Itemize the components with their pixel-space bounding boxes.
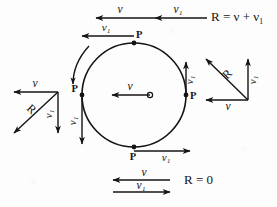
left-vector-triangle-group: ν ν₁ R (14, 77, 58, 133)
left-triangle-v1-label: ν₁ (42, 109, 54, 118)
right-triangle-v-label: ν (225, 100, 231, 112)
bottom-result-equation: R = 0 (184, 172, 213, 187)
left-triangle-v-label: ν (32, 77, 38, 89)
top-annotation-group: ν ν₁ R = ν + ν₁ (96, 3, 264, 24)
wheel-group: ν P ν₁ P ν₁ P ν₁ P ν₁ (66, 21, 197, 163)
left-triangle-resultant-label: R (24, 101, 39, 117)
top-result-equation: R = ν + ν₁ (211, 9, 264, 24)
point-p-bottom-vector-label: ν₁ (162, 151, 171, 163)
bottom-annotation-group: ν ν₁ R = 0 (113, 166, 213, 192)
rolling-wheel-figure: ν ν₁ R = ν + ν₁ ν P ν₁ P ν₁ P ν₁ P ν₁ (0, 0, 277, 207)
right-triangle-v1-label: ν₁ (246, 75, 258, 84)
point-p-bottom-label: P (130, 151, 137, 162)
center-velocity-label: ν (127, 80, 133, 92)
right-vector-triangle-group: ν ν₁ R (206, 59, 258, 112)
point-p-bottom-dot (132, 145, 137, 150)
right-triangle-resultant-label: R (219, 66, 234, 82)
top-vector-v-label: ν (117, 3, 123, 15)
point-p-right-vector-label: ν₁ (183, 75, 195, 84)
bottom-vector-v1-label: ν₁ (136, 179, 145, 191)
point-p-right-label: P (190, 90, 197, 101)
point-p-top-dot (132, 41, 137, 46)
point-p-left-vector-label: ν₁ (66, 116, 78, 125)
point-p-top-vector-label: ν₁ (102, 21, 111, 33)
top-vector-v1-label: ν₁ (173, 3, 182, 15)
bottom-vector-v-label: ν (141, 166, 147, 178)
point-p-top-label: P (136, 29, 143, 40)
point-p-left-label: P (72, 83, 79, 94)
rotation-direction-arc (73, 46, 89, 84)
